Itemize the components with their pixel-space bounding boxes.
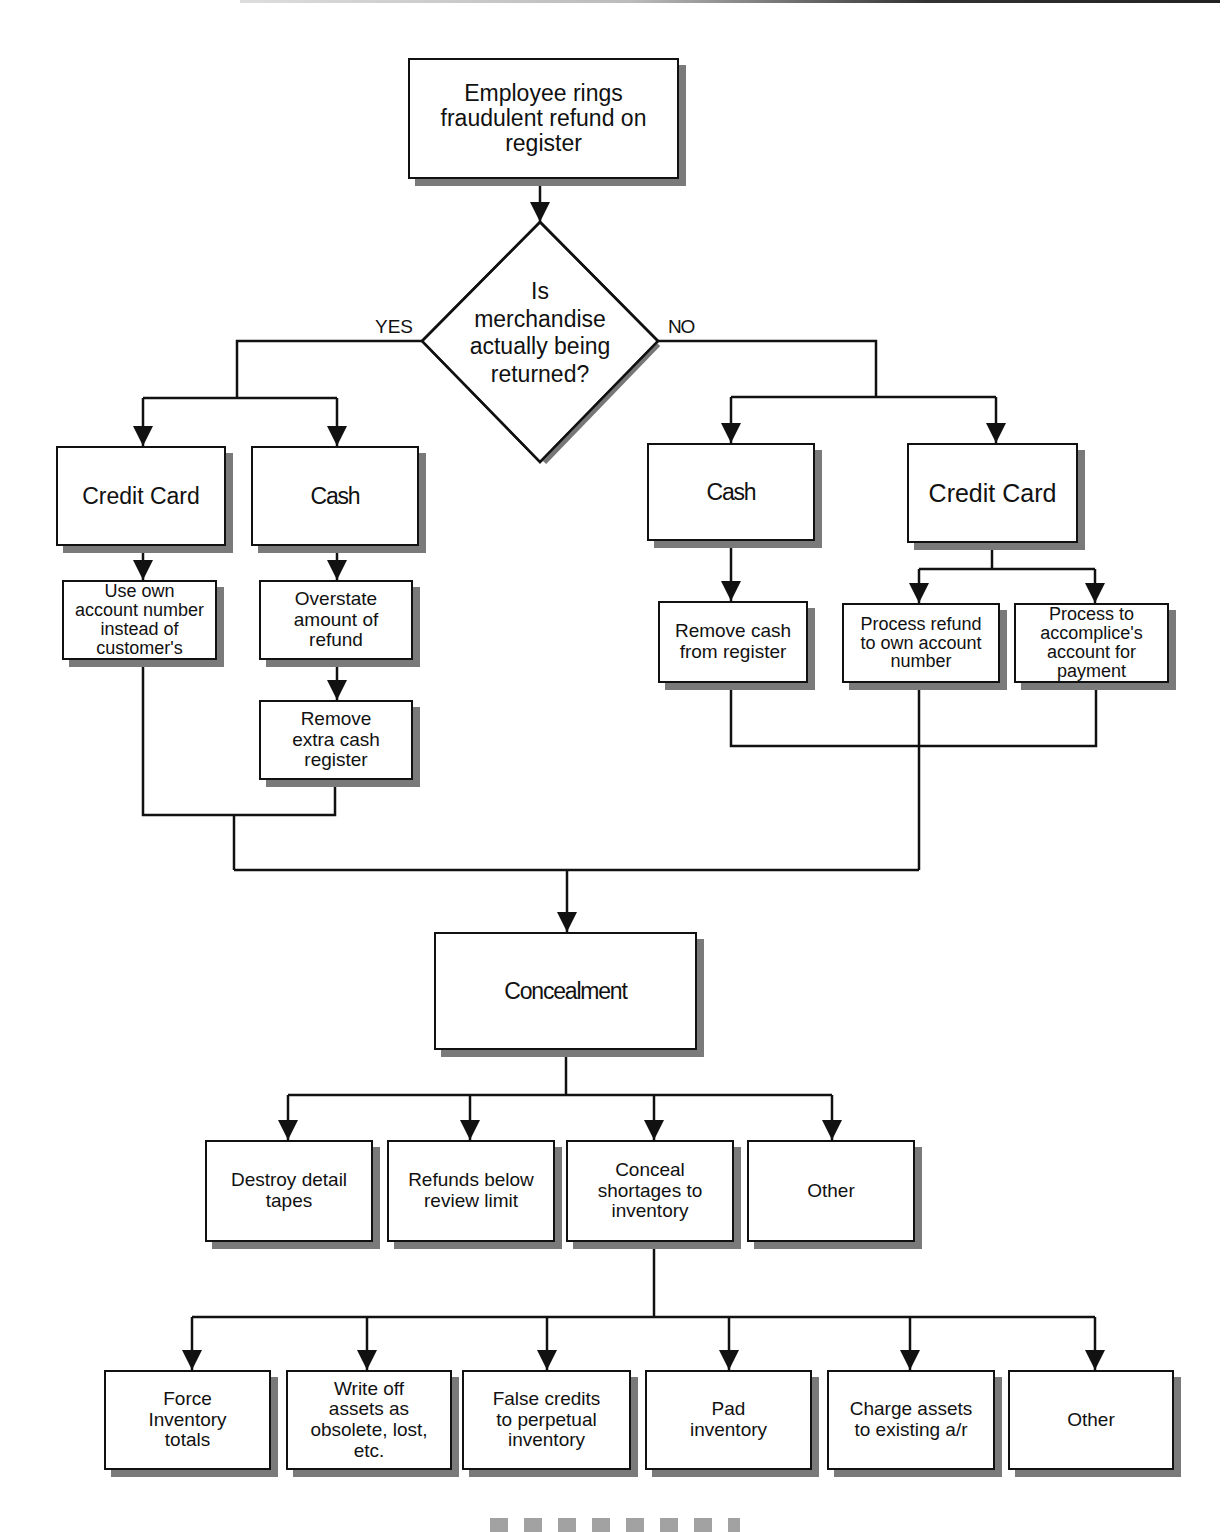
concealment-method-other: Other (747, 1140, 915, 1242)
yes-cash-label: Cash (311, 484, 360, 509)
yes-cash-box: Cash (251, 446, 419, 546)
method-label: Destroy detail tapes (231, 1170, 347, 1211)
no-credit-card-label: Credit Card (929, 480, 1057, 507)
connector-lines (0, 0, 1228, 1532)
inventory-method-label: False credits to perpetual inventory (493, 1389, 601, 1451)
no-cash-step-1: Remove cash from register (658, 601, 808, 683)
yes-cash-step-2: Remove extra cash register (259, 700, 413, 780)
concealment-method-refunds-below-limit: Refunds below review limit (387, 1140, 555, 1242)
concealment-method-conceal-shortages: Conceal shortages to inventory (566, 1140, 734, 1242)
method-label: Conceal shortages to inventory (598, 1160, 703, 1222)
concealment-box: Concealment (434, 932, 697, 1050)
inventory-method-label: Write off assets as obsolete, lost, etc. (310, 1379, 427, 1461)
start-label: Employee rings fraudulent refund on regi… (441, 81, 647, 155)
step-label: Overstate amount of refund (294, 589, 379, 651)
inventory-method-other: Other (1008, 1370, 1174, 1470)
yes-credit-card-label: Credit Card (82, 484, 200, 509)
no-cash-box: Cash (647, 443, 815, 541)
inventory-method-charge-assets: Charge assets to existing a/r (827, 1370, 995, 1470)
inventory-method-label: Other (1067, 1410, 1115, 1431)
no-credit-card-step-1: Process refund to own account number (842, 603, 1000, 683)
cropped-caption-fragment (490, 1518, 740, 1532)
method-label: Refunds below review limit (408, 1170, 534, 1211)
inventory-method-write-off: Write off assets as obsolete, lost, etc. (286, 1370, 452, 1470)
step-label: Use own account number instead of custom… (75, 582, 204, 658)
no-cash-label: Cash (707, 480, 756, 505)
inventory-method-label: Charge assets to existing a/r (850, 1399, 973, 1440)
no-credit-card-box: Credit Card (907, 443, 1078, 543)
decision-question: Is merchandise actually being returned? (440, 278, 640, 388)
step-label: Process refund to own account number (860, 615, 981, 672)
yes-credit-card-step-1: Use own account number instead of custom… (62, 580, 217, 660)
concealment-label: Concealment (504, 979, 626, 1004)
inventory-method-false-credits: False credits to perpetual inventory (462, 1370, 631, 1470)
yes-label: YES (375, 316, 413, 338)
no-credit-card-step-2: Process to accomplice's account for paym… (1014, 603, 1169, 683)
yes-cash-step-1: Overstate amount of refund (259, 580, 413, 660)
step-label: Remove cash from register (675, 621, 791, 662)
start-box: Employee rings fraudulent refund on regi… (408, 58, 679, 179)
inventory-method-label: Pad inventory (690, 1399, 767, 1440)
no-label: NO (668, 316, 694, 338)
inventory-method-pad-inventory: Pad inventory (645, 1370, 812, 1470)
inventory-method-label: Force Inventory totals (148, 1389, 226, 1451)
yes-credit-card-box: Credit Card (56, 446, 226, 546)
inventory-method-force-totals: Force Inventory totals (104, 1370, 271, 1470)
step-label: Remove extra cash register (292, 709, 380, 771)
concealment-method-destroy-tapes: Destroy detail tapes (205, 1140, 373, 1242)
step-label: Process to accomplice's account for paym… (1040, 605, 1142, 681)
method-label: Other (807, 1181, 855, 1202)
